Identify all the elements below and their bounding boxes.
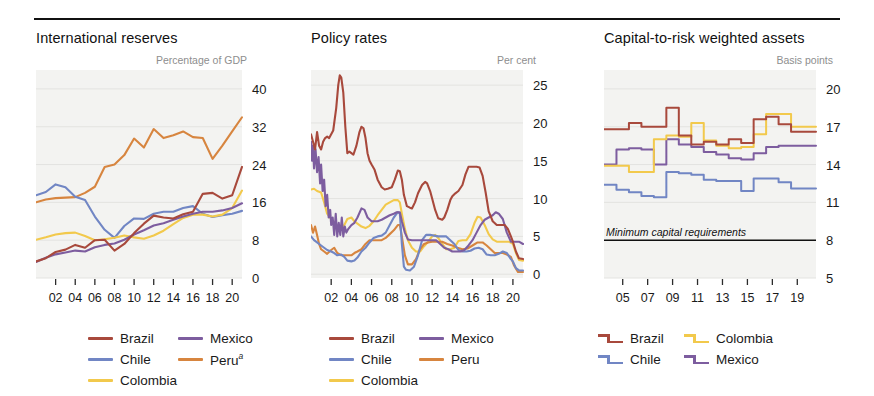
panel-unit-label: Per cent (497, 54, 536, 66)
x-axis-tick-label: 04 (344, 291, 358, 305)
legend-panel-3: BrazilChileColombiaMexico (582, 326, 873, 396)
x-axis-tick-label: 07 (641, 291, 655, 305)
legend-item-label: Chile (361, 352, 392, 367)
x-axis-tick-label: 12 (425, 291, 439, 305)
legend-step-swatch-icon (598, 333, 623, 344)
legend-footnote-marker: a (239, 351, 244, 361)
y-axis-tick-label: 20 (826, 82, 840, 97)
legend-item-label: Colombia (120, 373, 177, 388)
x-axis-tick-label: 14 (445, 291, 459, 305)
legend-item[interactable]: Brazil (598, 330, 684, 347)
legend-item[interactable]: Brazil (88, 330, 178, 347)
x-axis-tick-label: 06 (88, 291, 102, 305)
legend-item[interactable]: Chile (88, 351, 178, 368)
y-axis-tick-label: 8 (826, 233, 833, 248)
legend-item[interactable]: Mexico (684, 351, 773, 368)
panel-row: International reserves Percentage of GDP… (0, 26, 874, 326)
legend-item[interactable]: Peru (419, 351, 494, 368)
x-axis-tick-label: 15 (740, 291, 754, 305)
x-axis-tick-label: 18 (206, 291, 220, 305)
panel-policy-rates: Policy rates Per cent 051015202502040608… (291, 26, 582, 326)
chart-plot-area: 58111417200507091113151719Minimum capita… (604, 70, 856, 316)
legend-column: MexicoPerua (178, 330, 253, 389)
figure-sheet: International reserves Percentage of GDP… (0, 0, 874, 396)
legend-column: BrazilChileColombia (88, 330, 178, 389)
y-axis-tick-label: 10 (533, 192, 547, 207)
legend-panel-1: BrazilChileColombiaMexicoPerua (0, 326, 291, 396)
y-axis-tick-label: 0 (533, 267, 540, 282)
legend-line-swatch-icon (88, 379, 113, 382)
x-axis-tick-label: 17 (765, 291, 779, 305)
legend-item-label: Brazil (120, 331, 154, 346)
top-divider-rule (34, 18, 840, 20)
y-axis-tick-label: 25 (533, 78, 547, 93)
y-axis-tick-label: 5 (826, 271, 833, 286)
x-axis-tick-label: 05 (616, 291, 630, 305)
x-axis-tick-label: 08 (385, 291, 399, 305)
legend-item-label: Peru (451, 352, 480, 367)
legend-item[interactable]: Chile (598, 351, 684, 368)
panel-unit-label: Percentage of GDP (156, 54, 247, 66)
legend-item[interactable]: Colombia (88, 372, 178, 389)
plot-background (36, 70, 242, 278)
legend-item-label: Chile (120, 352, 151, 367)
y-axis-tick-label: 15 (533, 154, 547, 169)
y-axis-tick-label: 24 (252, 158, 266, 173)
legend-item-label: Brazil (361, 331, 395, 346)
x-axis-tick-label: 20 (506, 291, 520, 305)
legend-line-swatch-icon (88, 358, 113, 361)
legend-step-swatch-icon (684, 354, 709, 365)
legend-line-swatch-icon (419, 337, 444, 340)
panel-international-reserves: International reserves Percentage of GDP… (0, 26, 291, 326)
x-axis-tick-label: 19 (790, 291, 804, 305)
legend-item[interactable]: Colombia (329, 372, 419, 389)
y-axis-tick-label: 14 (826, 158, 840, 173)
y-axis-tick-label: 5 (533, 229, 540, 244)
legend-item[interactable]: Colombia (684, 330, 773, 347)
y-axis-tick-label: 32 (252, 120, 266, 135)
x-axis-tick-label: 20 (225, 291, 239, 305)
legend-item-label: Colombia (716, 331, 773, 346)
x-axis-tick-label: 02 (49, 291, 63, 305)
legend-item[interactable]: Mexico (419, 330, 494, 347)
x-axis-tick-label: 12 (147, 291, 161, 305)
y-axis-tick-label: 40 (252, 82, 266, 97)
legend-line-swatch-icon (419, 358, 444, 361)
legend-line-swatch-icon (88, 337, 113, 340)
x-axis-tick-label: 11 (691, 291, 704, 305)
legend-item[interactable]: Mexico (178, 330, 253, 347)
x-axis-tick-label: 06 (365, 291, 379, 305)
plot-background (604, 70, 816, 278)
legend-item[interactable]: Chile (329, 351, 419, 368)
legend-step-swatch-icon (598, 354, 623, 365)
legend-line-swatch-icon (178, 337, 203, 340)
legend-step-swatch-icon (684, 333, 709, 344)
y-axis-tick-label: 0 (252, 271, 259, 286)
legend-column: MexicoPeru (419, 330, 494, 389)
x-axis-tick-label: 04 (68, 291, 82, 305)
legend-item[interactable]: Brazil (329, 330, 419, 347)
y-axis-tick-label: 11 (826, 195, 840, 210)
legend-line-swatch-icon (329, 358, 354, 361)
chart-plot-area: 051015202502040608101214161820 (311, 70, 563, 316)
legend-item-label: Mexico (716, 352, 759, 367)
legend-column: BrazilChileColombia (329, 330, 419, 389)
legend-item-label: Colombia (361, 373, 418, 388)
legend-line-swatch-icon (178, 358, 203, 361)
legend-column: ColombiaMexico (684, 330, 773, 368)
y-axis-tick-label: 20 (533, 116, 547, 131)
legend-line-swatch-icon (329, 379, 354, 382)
legend-line-swatch-icon (329, 337, 354, 340)
x-axis-tick-label: 14 (166, 291, 180, 305)
panel-title: Policy rates (311, 30, 387, 46)
y-axis-tick-label: 16 (252, 195, 266, 210)
panel-unit-label: Basis points (776, 54, 833, 66)
panel-capital-to-risk-weighted-assets: Capital-to-risk weighted assets Basis po… (582, 26, 873, 326)
legend-column: BrazilChile (598, 330, 684, 368)
minimum-capital-requirements-label: Minimum capital requirements (606, 226, 747, 238)
x-axis-tick-label: 02 (324, 291, 338, 305)
x-axis-tick-label: 10 (127, 291, 141, 305)
legend-item-label: Mexico (451, 331, 494, 346)
x-axis-tick-label: 16 (466, 291, 480, 305)
legend-item[interactable]: Perua (178, 351, 253, 368)
